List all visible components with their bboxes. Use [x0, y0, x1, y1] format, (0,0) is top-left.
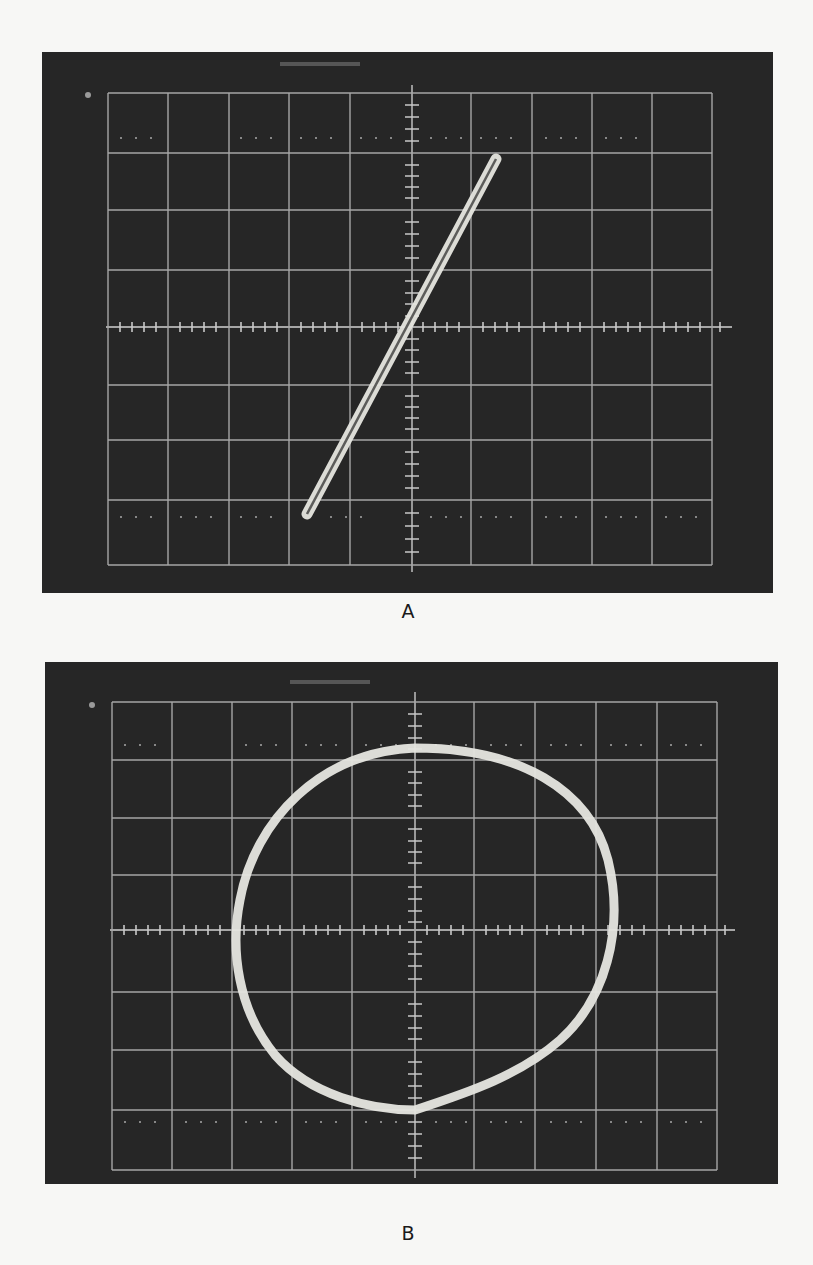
screen-glare — [290, 680, 370, 684]
oscilloscope-panel-b — [45, 662, 778, 1184]
screen-spot — [85, 92, 91, 98]
scope-screen-b — [45, 662, 778, 1184]
screen-spot — [89, 702, 95, 708]
oscilloscope-panel-a — [42, 52, 773, 593]
screen-glare — [280, 62, 360, 66]
scope-screen-a — [42, 52, 773, 593]
panel-label-a: A — [388, 600, 428, 622]
panel-label-b: B — [388, 1222, 428, 1244]
